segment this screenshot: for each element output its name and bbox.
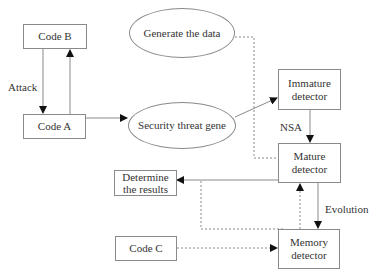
node-memory-detector-line1: Memory [290, 236, 328, 249]
edge-label-attack: Attack [8, 81, 37, 93]
node-generate-data: Generate the data [129, 8, 235, 58]
node-mature-detector-line1: Mature [294, 150, 326, 163]
node-code-b-label: Code B [38, 30, 71, 43]
node-mature-detector-line2: detector [292, 163, 327, 176]
edge-label-evolution: Evolution [325, 203, 368, 215]
node-determine-results-line1: Determine [122, 171, 168, 183]
edge-memory-to-determine [201, 181, 283, 229]
node-immature-detector: Immature detector [278, 69, 341, 110]
edge-label-nsa: NSA [280, 121, 302, 133]
node-security-threat-gene-label: Security threat gene [138, 119, 226, 132]
node-code-a: Code A [23, 114, 86, 139]
node-memory-detector: Memory detector [278, 229, 340, 269]
edge-generate-to-mature [235, 37, 278, 158]
node-code-a-label: Code A [38, 120, 71, 133]
node-code-b: Code B [23, 24, 87, 49]
node-code-c: Code C [115, 236, 177, 261]
node-determine-results-line2: the results [123, 183, 168, 195]
node-generate-data-label: Generate the data [144, 27, 221, 40]
node-security-threat-gene: Security threat gene [128, 102, 236, 149]
edge-security-to-immature [235, 98, 277, 117]
node-memory-detector-line2: detector [291, 249, 326, 262]
node-immature-detector-line2: detector [292, 90, 327, 103]
node-determine-results: Determine the results [114, 170, 177, 196]
node-immature-detector-line1: Immature [288, 77, 331, 90]
node-code-c-label: Code C [129, 242, 162, 255]
node-mature-detector: Mature detector [278, 143, 341, 183]
